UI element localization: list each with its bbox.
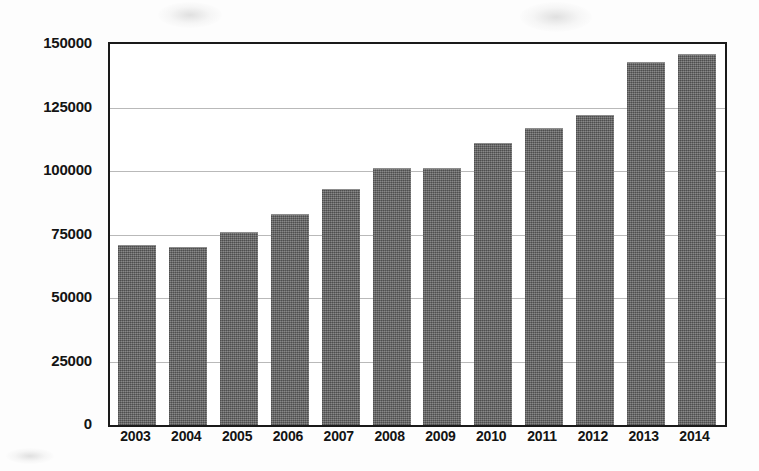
bar[interactable] (322, 189, 360, 425)
y-axis-tick-label: 25000 (0, 352, 100, 367)
bar[interactable] (271, 214, 309, 425)
bar[interactable] (220, 232, 258, 425)
x-axis-tick-label: 2013 (618, 429, 669, 453)
y-axis-tick-label: 100000 (0, 162, 100, 177)
x-axis-tick-label: 2006 (262, 429, 313, 453)
y-axis-tick-label: 50000 (0, 289, 100, 304)
bar-slot (671, 44, 722, 425)
x-axis-tick-label: 2003 (110, 429, 161, 453)
bar-slot (519, 44, 570, 425)
bar-slot (468, 44, 519, 425)
x-axis-tick-label: 2010 (466, 429, 517, 453)
bar-slot (417, 44, 468, 425)
x-axis-tick-label: 2008 (364, 429, 415, 453)
x-axis: 2003200420052006200720082009201020112012… (108, 429, 723, 453)
y-axis-tick-label: 75000 (0, 225, 100, 240)
scan-artifact (158, 2, 222, 28)
bar[interactable] (423, 168, 461, 425)
x-axis-tick-label: 2014 (669, 429, 720, 453)
bar-slot (214, 44, 265, 425)
bar-slot (315, 44, 366, 425)
y-axis-tick-label: 0 (0, 416, 100, 431)
plot-area (108, 42, 727, 427)
bar-slot (112, 44, 163, 425)
scan-artifact (520, 2, 592, 32)
bar-slot (620, 44, 671, 425)
x-axis-tick-label: 2012 (567, 429, 618, 453)
y-axis-tick-label: 150000 (0, 35, 100, 50)
bar-slot (569, 44, 620, 425)
bar[interactable] (373, 168, 411, 425)
bar[interactable] (525, 128, 563, 425)
bar-slot (366, 44, 417, 425)
bar[interactable] (169, 247, 207, 425)
bar-slot (163, 44, 214, 425)
bar-slot (264, 44, 315, 425)
x-axis-tick-label: 2011 (517, 429, 568, 453)
x-axis-tick-label: 2005 (212, 429, 263, 453)
x-axis-tick-label: 2009 (415, 429, 466, 453)
bar[interactable] (627, 62, 665, 425)
bar-chart: 0250005000075000100000125000150000 20032… (0, 0, 759, 471)
bar[interactable] (678, 54, 716, 425)
y-axis: 0250005000075000100000125000150000 (0, 0, 100, 471)
bar[interactable] (474, 143, 512, 425)
bar[interactable] (118, 245, 156, 425)
x-axis-tick-label: 2004 (161, 429, 212, 453)
bar-series (110, 44, 725, 425)
bar[interactable] (576, 115, 614, 425)
x-axis-tick-label: 2007 (313, 429, 364, 453)
y-axis-tick-label: 125000 (0, 98, 100, 113)
